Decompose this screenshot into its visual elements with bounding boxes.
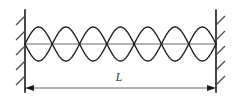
left-wall <box>16 10 25 92</box>
dimension-arrow-left <box>25 85 34 91</box>
standing-wave-figure: L <box>0 0 242 104</box>
hatch-mark <box>16 16 25 25</box>
figure-canvas: L <box>0 0 242 104</box>
dimension-arrow-right <box>207 85 216 91</box>
hatch-mark <box>16 31 25 40</box>
right-wall-hatching <box>216 16 225 85</box>
hatch-mark <box>16 46 25 55</box>
length-label: L <box>115 71 122 83</box>
hatch-mark <box>216 61 225 70</box>
hatch-mark <box>16 61 25 70</box>
hatch-mark <box>216 16 225 25</box>
hatch-mark <box>216 46 225 55</box>
left-wall-hatching <box>16 16 25 85</box>
hatch-mark <box>216 31 225 40</box>
right-wall <box>216 10 225 92</box>
hatch-mark <box>16 76 25 85</box>
hatch-mark <box>216 76 225 85</box>
length-dimension: L <box>25 71 216 91</box>
